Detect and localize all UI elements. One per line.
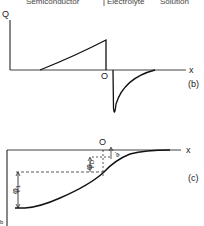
panel-b-panel-label: (b) [188, 79, 199, 89]
panel-c-x-label: x [186, 145, 191, 155]
panel-c-phi1-label: φ1 [10, 184, 21, 194]
panel-b-charge-plot: Q x O (b) [2, 9, 199, 112]
panel-b-ionic-charge-curve [113, 70, 155, 112]
panel-b-space-charge-curve [40, 40, 106, 70]
panel-c-potential-curve [15, 150, 170, 208]
panel-b-y-label: Q [2, 9, 9, 19]
diagram-canvas: Semiconductor Electrolyte Solution Q x O… [0, 0, 204, 226]
panel-c-phiD-label: φD [84, 159, 95, 170]
header-electrolyte: Electrolyte [107, 0, 145, 6]
panel-c-panel-label: (c) [188, 173, 199, 183]
panel-c-phiprime-label: φ′ [114, 151, 120, 157]
header-semiconductor: Semiconductor [26, 0, 80, 6]
panel-c-bottom-label: b [0, 219, 4, 225]
panel-c-potential-plot: x b O φ1 φD φ′ (c) [0, 137, 199, 226]
header-solution: Solution [160, 0, 189, 6]
panel-b-x-label: x [189, 65, 194, 75]
panel-b-origin-label: O [101, 71, 108, 81]
panel-c-origin-label: O [99, 137, 106, 147]
